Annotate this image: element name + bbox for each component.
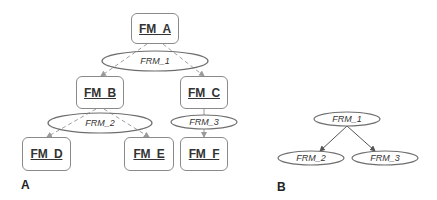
relation-label: FRM_3: [370, 153, 400, 163]
relation-frm-2-b: FRM_2: [278, 151, 344, 165]
feature-model-fm-a: FM_A: [131, 13, 179, 44]
relation-frm-1-a: FRM_1: [102, 51, 208, 71]
edge-frm-1-to-frm-2: [320, 126, 347, 151]
feature-model-label: FM_C: [188, 86, 220, 100]
diagram-canvas: FRM_1 FRM_2 FRM_3 FRM_1 FRM_2: [0, 0, 437, 200]
feature-model-fm-f: FM_F: [180, 137, 228, 171]
relation-label: FRM_1: [140, 56, 170, 66]
feature-model-label: FM_F: [189, 147, 220, 161]
feature-model-label: FM_A: [139, 22, 171, 36]
feature-model-fm-b: FM_B: [76, 76, 124, 109]
relation-label: FRM_2: [296, 153, 326, 163]
panel-b-edges: [320, 126, 375, 151]
relation-frm-1-b: FRM_1: [314, 112, 380, 126]
feature-model-label: FM_E: [133, 147, 164, 161]
feature-model-fm-c: FM_C: [180, 76, 228, 109]
feature-model-fm-d: FM_D: [22, 137, 71, 171]
feature-model-label: FM_D: [31, 147, 63, 161]
feature-model-fm-e: FM_E: [124, 137, 174, 171]
panel-a-label: A: [21, 178, 30, 192]
relation-frm-2-a: FRM_2: [48, 113, 152, 133]
relation-label: FRM_1: [332, 114, 362, 124]
edge-frm-1-to-frm-3: [347, 126, 375, 151]
panel-b-label: B: [277, 180, 286, 194]
relation-frm-3-a: FRM_3: [171, 115, 237, 129]
relation-label: FRM_2: [85, 118, 115, 128]
relation-frm-3-b: FRM_3: [352, 151, 418, 165]
feature-model-label: FM_B: [84, 86, 116, 100]
panel-b-relations: FRM_1 FRM_2 FRM_3: [278, 112, 418, 165]
relation-label: FRM_3: [189, 117, 219, 127]
